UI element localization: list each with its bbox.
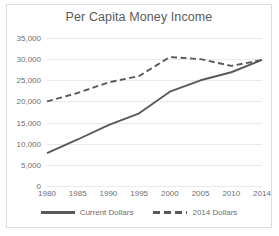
chart-legend: Current Dollars2014 Dollars (7, 208, 271, 217)
legend-label: Current Dollars (80, 208, 134, 217)
legend-entry[interactable]: Current Dollars (41, 208, 134, 217)
y-axis-tick-label: 30,000 (17, 55, 41, 64)
y-axis-tick-label: 35,000 (17, 34, 41, 43)
series-line (47, 60, 262, 153)
y-axis-tick-label: 10,000 (17, 139, 41, 148)
solid-line-icon (41, 211, 75, 214)
x-axis-tick-label: 1980 (38, 189, 56, 198)
legend-label: 2014 Dollars (192, 208, 237, 217)
series-line (47, 57, 262, 101)
plot-area (47, 38, 262, 186)
x-axis-tick-label: 1990 (100, 189, 118, 198)
x-axis-tick-labels: 19801985199019952000200520102014 (47, 189, 262, 203)
gridline (47, 186, 262, 187)
x-axis-tick-label: 2014 (253, 189, 271, 198)
y-axis-tick-label: 15,000 (17, 118, 41, 127)
dashed-line-icon (153, 211, 187, 214)
y-axis-tick-label: 25,000 (17, 76, 41, 85)
chart-container: Per Capita Money Income 35,00030,00025,0… (6, 4, 272, 228)
x-axis-tick-label: 2010 (222, 189, 240, 198)
x-axis-tick-label: 2000 (161, 189, 179, 198)
y-axis-tick-label: 20,000 (17, 97, 41, 106)
y-axis-tick-labels: 35,00030,00025,00020,00015,00010,0005,00… (7, 38, 45, 186)
chart-title: Per Capita Money Income (7, 10, 271, 24)
x-axis-tick-label: 1995 (130, 189, 148, 198)
x-axis-tick-label: 1985 (69, 189, 87, 198)
series-lines (47, 38, 262, 186)
legend-entry[interactable]: 2014 Dollars (153, 208, 237, 217)
x-axis-tick-label: 2005 (192, 189, 210, 198)
y-axis-tick-label: 5,000 (21, 160, 41, 169)
